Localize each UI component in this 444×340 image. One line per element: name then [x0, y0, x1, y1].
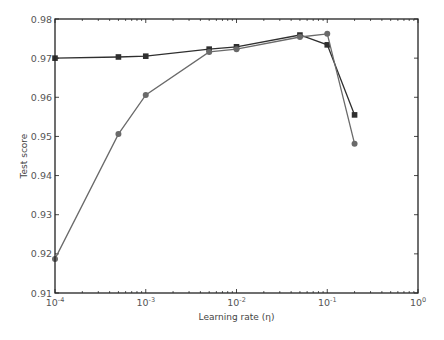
data-point-circle: [115, 131, 121, 137]
data-point-square: [352, 112, 358, 118]
x-tick-label: 10-3: [136, 296, 155, 308]
major-ticks: [55, 19, 418, 293]
x-tick-label: 100: [410, 296, 426, 308]
y-tick-label: 0.92: [31, 248, 52, 259]
data-point-circle: [206, 49, 212, 55]
minor-ticks: [82, 19, 414, 293]
series-square: [52, 32, 357, 117]
y-tick-label: 0.93: [31, 209, 52, 220]
y-axis-label: Test score: [19, 133, 29, 179]
line-chart: 0.910.920.930.940.950.960.970.98 10-410-…: [0, 0, 444, 340]
y-tick-label: 0.95: [31, 131, 52, 142]
x-tick-label: 10-2: [227, 296, 246, 308]
data-point-square: [116, 54, 122, 60]
x-tick-labels: 10-410-310-210-1100: [46, 296, 426, 308]
data-point-circle: [324, 31, 330, 37]
y-tick-label: 0.97: [31, 53, 52, 64]
y-tick-label: 0.98: [31, 14, 52, 25]
data-point-circle: [143, 92, 149, 98]
data-point-circle: [234, 46, 240, 52]
plot-frame: [55, 19, 418, 293]
y-tick-label: 0.96: [31, 92, 52, 103]
data-point-circle: [297, 34, 303, 40]
x-tick-label: 10-4: [46, 296, 65, 308]
x-axis-label: Learning rate (η): [199, 312, 275, 322]
series-line: [55, 34, 355, 259]
series-line: [55, 35, 355, 115]
series-circle: [52, 31, 358, 262]
y-tick-label: 0.94: [31, 170, 52, 181]
y-tick-labels: 0.910.920.930.940.950.960.970.98: [31, 14, 52, 299]
data-point-square: [143, 53, 149, 59]
series-layer: [52, 31, 358, 262]
x-tick-label: 10-1: [318, 296, 337, 308]
data-point-circle: [352, 141, 358, 147]
